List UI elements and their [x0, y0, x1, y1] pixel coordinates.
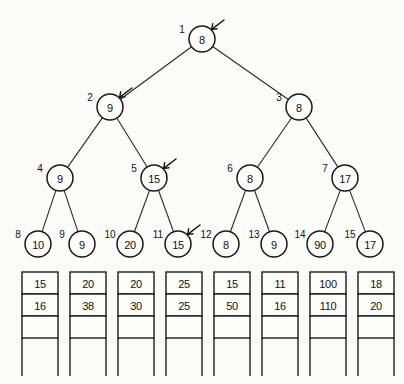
tree-node[interactable]: 1511 [153, 225, 200, 257]
array-cell-value: 25 [178, 278, 190, 290]
array-column[interactable]: 100110 [310, 272, 346, 376]
array-column[interactable]: 1516 [22, 272, 58, 376]
node-value-label: 90 [314, 239, 326, 251]
tree-diagram-canvas: 8192839415586177108992010151181291390141… [0, 0, 404, 384]
node-index-label: 14 [294, 229, 306, 240]
tree-edge [120, 47, 191, 100]
tree-node[interactable]: 108 [15, 229, 51, 258]
tree-edge [64, 190, 78, 231]
array-column[interactable]: 1550 [214, 272, 250, 376]
node-index-label: 3 [276, 92, 282, 103]
node-value-label: 20 [124, 239, 136, 251]
array-column[interactable]: 1116 [262, 272, 298, 376]
tree-edge [42, 190, 56, 231]
array-column[interactable]: 2030 [118, 272, 154, 376]
node-index-label: 1 [179, 24, 185, 35]
array-cell-value: 100 [319, 278, 337, 290]
tree-node[interactable]: 92 [87, 88, 132, 120]
node-index-label: 6 [227, 163, 233, 174]
array-cell[interactable] [118, 316, 154, 338]
node-value-label: 15 [148, 173, 160, 185]
node-value-label: 9 [57, 173, 63, 185]
tree-edge [257, 118, 291, 168]
node-value-label: 8 [296, 102, 302, 114]
tree-node[interactable]: 94 [37, 163, 73, 192]
tree-node[interactable]: 155 [131, 159, 176, 191]
pointer-arrow-icon [188, 225, 200, 234]
array-cell[interactable] [262, 316, 298, 338]
node-index-label: 5 [131, 163, 137, 174]
node-index-label: 2 [87, 92, 93, 103]
tree-edges-layer [42, 46, 365, 231]
node-value-label: 10 [32, 239, 44, 251]
pointer-arrow-icon [212, 20, 224, 29]
array-cell[interactable] [310, 316, 346, 338]
tree-node[interactable]: 9014 [294, 229, 333, 258]
array-cell-value: 20 [82, 278, 94, 290]
node-value-label: 9 [271, 239, 277, 251]
tree-edge [230, 190, 245, 232]
array-cell-value: 15 [34, 278, 46, 290]
tree-node[interactable]: 913 [248, 229, 287, 258]
array-column[interactable]: 2038 [70, 272, 106, 376]
array-cell-value: 16 [34, 300, 46, 312]
tree-node[interactable]: 2010 [104, 229, 143, 258]
node-index-label: 11 [153, 229, 164, 240]
tree-node[interactable]: 99 [59, 229, 95, 258]
tree-node[interactable]: 1715 [344, 229, 383, 258]
array-cell-value: 18 [370, 278, 382, 290]
node-index-label: 13 [248, 229, 260, 240]
node-index-label: 15 [344, 229, 356, 240]
node-index-label: 9 [59, 229, 65, 240]
node-index-label: 10 [104, 229, 116, 240]
tree-edge [67, 118, 102, 168]
tree-edge [306, 118, 338, 167]
array-cell-value: 110 [320, 300, 337, 312]
array-column[interactable]: 2525 [166, 272, 202, 376]
tree-node[interactable]: 86 [227, 163, 263, 192]
array-cell-value: 16 [274, 300, 286, 312]
node-value-label: 8 [223, 239, 229, 251]
array-cell[interactable] [358, 316, 394, 338]
node-index-label: 12 [200, 229, 212, 240]
array-cell[interactable] [214, 316, 250, 338]
array-cell-value: 20 [370, 300, 382, 312]
node-value-label: 8 [247, 173, 253, 185]
array-cell-value: 25 [178, 300, 190, 312]
tree-node[interactable]: 81 [179, 20, 224, 52]
tree-node[interactable]: 83 [276, 92, 312, 121]
array-cell-value: 15 [226, 278, 238, 290]
node-value-label: 9 [79, 239, 85, 251]
tree-edge [350, 190, 366, 232]
node-value-label: 8 [199, 34, 205, 46]
node-index-label: 8 [15, 229, 21, 240]
tree-node[interactable]: 177 [322, 163, 358, 192]
tree-edge [325, 190, 341, 232]
node-value-label: 9 [107, 102, 113, 114]
tree-edge [117, 118, 147, 167]
array-cell-value: 30 [130, 300, 142, 312]
array-cell-value: 50 [226, 300, 238, 312]
array-columns-layer: 1516203820302525155011161001101820 [22, 272, 394, 376]
tree-edge [254, 190, 269, 232]
figure-root: 8192839415586177108992010151181291390141… [0, 0, 404, 384]
pointer-arrow-icon [164, 159, 176, 168]
array-cell-value: 20 [130, 278, 142, 290]
array-column[interactable]: 1820 [358, 272, 394, 376]
array-cell-value: 11 [275, 278, 286, 290]
node-value-label: 17 [339, 173, 351, 185]
node-value-label: 17 [364, 239, 376, 251]
array-cell[interactable] [166, 316, 202, 338]
tree-edge [134, 190, 149, 232]
array-cell[interactable] [22, 316, 58, 338]
node-index-label: 4 [37, 163, 43, 174]
tree-nodes-layer: 8192839415586177108992010151181291390141… [15, 20, 383, 257]
node-index-label: 7 [322, 163, 328, 174]
node-value-label: 15 [172, 239, 184, 251]
tree-edge [158, 190, 173, 232]
array-cell[interactable] [70, 316, 106, 338]
array-cell-value: 38 [82, 300, 94, 312]
tree-node[interactable]: 812 [200, 229, 239, 258]
